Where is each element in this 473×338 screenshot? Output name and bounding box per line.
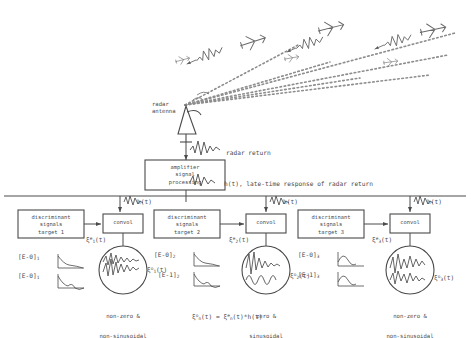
discriminant-line-1: discriminant: [18, 214, 84, 221]
discriminant-plots-1: [58, 254, 84, 290]
discriminant-box-label-1: discriminant signals target 1: [18, 214, 84, 236]
amplifier-box-line-1: amplifier: [145, 164, 225, 171]
discriminant-plots-3: [338, 252, 364, 286]
bus-tap-label-2: h(t): [283, 198, 298, 206]
discriminant-line-2: signals: [18, 221, 84, 228]
discriminant-line-2: signals: [298, 221, 364, 228]
discriminant-line-2: signals: [154, 221, 220, 228]
convolution-equation: ξon(t) = ξen(t)*h(t): [192, 313, 262, 321]
bus-tap-label-1: h(t): [137, 198, 152, 206]
convolver-label-2: convol: [246, 219, 286, 226]
convolver-label-3: convol: [390, 219, 430, 226]
character-label-3: non-zero & non-sinusoidal: [370, 299, 450, 338]
radar-return-label: radar return: [226, 149, 271, 157]
bus-tap-label-3: h(t): [427, 198, 442, 206]
discriminant-label-3b: [E-1]3: [298, 271, 319, 279]
radar-antenna-label: radar antenna: [152, 101, 176, 115]
discriminant-label-3a: [E-0]3: [298, 251, 319, 259]
late-time-response-label: h(t), late-time response of radar return: [224, 180, 373, 188]
discriminant-box-label-2: discriminant signals target 2: [154, 214, 220, 236]
character-line-1: non-zero &: [83, 313, 163, 320]
discriminant-line-3: target 3: [298, 229, 364, 236]
aircraft-icon-group: [175, 18, 448, 67]
amplifier-box-label: amplifier signal processing: [145, 164, 225, 186]
input-signal-label-2: ξe2(t): [229, 236, 249, 244]
character-line-2: non-sinusoidal: [83, 333, 163, 338]
amplifier-box-line-2: signal: [145, 171, 225, 178]
character-line-2: non-sinusoidal: [370, 333, 450, 338]
character-label-1: non-zero & non-sinusoidal: [83, 299, 163, 338]
discriminant-label-1a: [E-0]1: [18, 253, 39, 261]
character-line-1: non-zero &: [370, 313, 450, 320]
target-return-waveforms: [187, 33, 412, 64]
amplifier-box-line-3: processing: [145, 179, 225, 186]
bus-tap-waveforms: [124, 196, 433, 205]
input-signal-label-1: ξe1(t): [86, 236, 106, 244]
radar-return-waveform: [190, 141, 220, 155]
discriminant-line-3: target 1: [18, 229, 84, 236]
discriminant-line-1: discriminant: [154, 214, 220, 221]
discriminant-box-label-3: discriminant signals target 3: [298, 214, 364, 236]
output-signal-label-3: ξo3(t): [434, 274, 454, 282]
output-waveform-circle-2: [242, 246, 290, 294]
character-line-2: sinusoidal: [226, 333, 306, 338]
input-signal-label-3: ξe3(t): [372, 236, 392, 244]
discriminant-line-3: target 2: [154, 229, 220, 236]
discriminant-label-2a: [E-0]2: [154, 251, 175, 259]
output-waveform-circle-3: [386, 246, 434, 294]
diagram-canvas: [0, 0, 473, 338]
antenna-icon: [178, 92, 209, 142]
discriminant-label-1b: [E-0]1: [18, 272, 39, 280]
convolver-label-1: convol: [103, 219, 143, 226]
radar-beams: [185, 33, 455, 105]
discriminant-label-2b: [E-1]2: [158, 271, 179, 279]
discriminant-line-1: discriminant: [298, 214, 364, 221]
discriminant-plots-2: [194, 252, 220, 288]
